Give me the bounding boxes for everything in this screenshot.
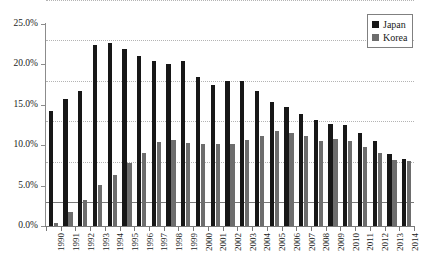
bar-japan-1993 <box>93 45 97 226</box>
legend-swatch-japan-icon <box>372 21 379 28</box>
bar-korea-1999 <box>186 143 190 226</box>
bar-japan-2007 <box>299 114 303 226</box>
bar-korea-2003 <box>245 140 249 226</box>
x-axis-tick-label: 1990 <box>57 233 66 251</box>
bar-group <box>193 24 208 226</box>
bar-korea-2002 <box>230 144 234 226</box>
bar-korea-2010 <box>348 141 352 226</box>
legend-label-korea: Korea <box>383 33 407 43</box>
bar-group <box>178 24 193 226</box>
bar-group <box>399 24 414 226</box>
bar-japan-1991 <box>63 99 67 226</box>
bar-group <box>370 24 385 226</box>
x-axis-tick <box>355 227 356 231</box>
x-axis-tick-label: 2001 <box>219 233 228 251</box>
bar-korea-1991 <box>68 212 72 226</box>
x-axis-tick-label: 2006 <box>293 233 302 251</box>
x-axis-tick-label: 1995 <box>131 233 140 251</box>
bar-group <box>90 24 105 226</box>
x-axis-tick-label: 2013 <box>396 233 405 251</box>
bar-korea-1992 <box>83 200 87 226</box>
x-axis-tick <box>326 227 327 231</box>
bar-korea-1997 <box>157 142 161 226</box>
bar-group <box>296 24 311 226</box>
x-axis-tick <box>149 227 150 231</box>
bar-japan-1996 <box>137 56 141 226</box>
legend-item-korea: Korea <box>372 31 407 44</box>
bar-japan-2012 <box>373 141 377 226</box>
bar-korea-2005 <box>275 131 279 226</box>
bar-japan-1994 <box>108 43 112 226</box>
x-axis-tick <box>178 227 179 231</box>
bar-korea-2012 <box>378 153 382 226</box>
bar-korea-1995 <box>127 163 131 226</box>
bar-group <box>61 24 76 226</box>
x-axis-tick <box>311 227 312 231</box>
x-axis-tick-label: 2012 <box>381 233 390 251</box>
y-axis-tick-label: 0.0% <box>0 221 38 231</box>
legend-label-japan: Japan <box>383 20 406 30</box>
x-axis-tick <box>340 227 341 231</box>
x-axis-tick <box>105 227 106 231</box>
y-axis-tick-label: 5.0% <box>0 181 38 191</box>
x-axis-tick <box>282 227 283 231</box>
bar-korea-2007 <box>304 136 308 226</box>
x-axis-tick <box>75 227 76 231</box>
y-axis-tick-label: 10.0% <box>0 140 38 150</box>
x-axis-tick <box>370 227 371 231</box>
bar-japan-1990 <box>49 111 53 226</box>
bar-japan-2003 <box>240 81 244 226</box>
x-axis-tick <box>134 227 135 231</box>
bar-korea-1990 <box>54 223 58 226</box>
bar-group <box>105 24 120 226</box>
bar-group <box>237 24 252 226</box>
x-axis-tick-label: 2000 <box>205 233 214 251</box>
x-axis-tick-label: 2010 <box>352 233 361 251</box>
x-axis-tick-label: 1997 <box>160 233 169 251</box>
x-axis-tick-label: 2002 <box>234 233 243 251</box>
legend-item-japan: Japan <box>372 18 407 31</box>
y-axis-tick-label: 15.0% <box>0 100 38 110</box>
bar-group <box>134 24 149 226</box>
bar-korea-1993 <box>98 185 102 226</box>
bar-japan-1992 <box>78 91 82 226</box>
bar-korea-2008 <box>319 141 323 226</box>
bar-group <box>208 24 223 226</box>
bar-japan-2006 <box>284 107 288 226</box>
x-axis-tick-label: 1996 <box>146 233 155 251</box>
bar-group <box>223 24 238 226</box>
x-axis-tick-label: 2005 <box>278 233 287 251</box>
x-axis-tick <box>252 227 253 231</box>
bar-korea-2001 <box>216 144 220 226</box>
bar-group <box>326 24 341 226</box>
x-axis-tick <box>385 227 386 231</box>
bar-japan-2010 <box>343 125 347 226</box>
bar-group <box>282 24 297 226</box>
x-axis-tick <box>237 227 238 231</box>
x-axis-tick-label: 2007 <box>308 233 317 251</box>
bar-japan-2004 <box>255 91 259 226</box>
bar-japan-2002 <box>225 81 229 226</box>
x-axis-tick <box>223 227 224 231</box>
x-axis-tick <box>414 227 415 231</box>
y-axis-tick-label: 20.0% <box>0 59 38 69</box>
bar-group <box>385 24 400 226</box>
bar-japan-2011 <box>358 133 362 226</box>
bar-korea-2011 <box>363 147 367 226</box>
bar-japan-2005 <box>270 102 274 226</box>
bar-group <box>46 24 61 226</box>
bar-japan-2000 <box>196 77 200 226</box>
bar-group <box>75 24 90 226</box>
bar-korea-2013 <box>392 160 396 226</box>
x-axis-tick <box>267 227 268 231</box>
bar-korea-2009 <box>333 139 337 226</box>
bar-japan-2013 <box>387 154 391 226</box>
bar-group <box>120 24 135 226</box>
bar-korea-2004 <box>260 136 264 226</box>
x-axis-tick-label: 2003 <box>249 233 258 251</box>
bar-korea-2014 <box>407 161 411 226</box>
bar-japan-2009 <box>328 124 332 226</box>
bar-japan-1995 <box>122 49 126 226</box>
x-axis-tick-label: 2009 <box>337 233 346 251</box>
bar-japan-2001 <box>211 85 215 226</box>
